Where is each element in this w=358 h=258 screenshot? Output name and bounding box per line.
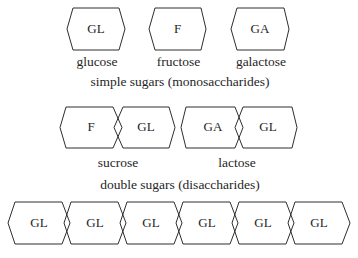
galactose-molecule: GA galactose [231,8,289,69]
unit-label: GL [137,119,154,134]
disaccharide-row: F GL sucrose GA GL lactose double sugars… [60,107,297,192]
unit-label: GL [142,215,159,230]
unit-label: GL [198,215,215,230]
unit-label: GL [254,215,271,230]
sugar-name: fructose [157,54,200,69]
monosaccharide-row: GL glucose F fructose GA galactose simpl… [67,8,289,89]
sugar-name: galactose [236,54,286,69]
unit-label: F [174,21,181,36]
sugar-name: sucrose [98,155,139,170]
unit-label: GL [259,119,276,134]
fructose-molecule: F fructose [149,8,206,69]
unit-label: GL [310,215,327,230]
polysaccharide-chain: GL GL GL GL GL GL [8,202,350,244]
disaccharide-caption: double sugars (disaccharides) [100,177,260,192]
unit-label: GL [86,215,103,230]
unit-label: F [87,119,94,134]
unit-label: GA [204,119,223,134]
sugar-diagram: GL glucose F fructose GA galactose simpl… [0,0,358,258]
unit-label: GL [30,215,47,230]
unit-label: GA [251,21,270,36]
sugar-name: lactose [218,155,255,170]
lactose-molecule: GA GL lactose [181,107,297,170]
unit-label: GL [87,21,104,36]
sugar-name: glucose [76,54,117,69]
sucrose-molecule: F GL sucrose [60,107,175,170]
glucose-molecule: GL glucose [67,8,125,69]
monosaccharide-caption: simple sugars (monosaccharides) [90,74,269,89]
